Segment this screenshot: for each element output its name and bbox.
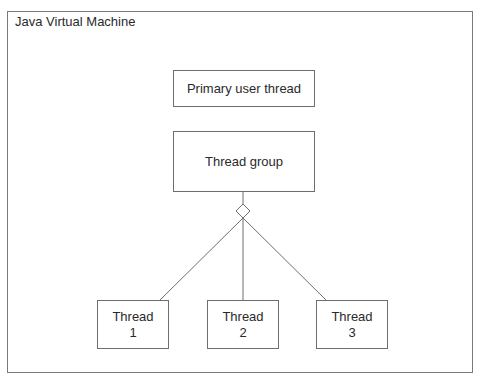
thread-2-number: 2	[239, 325, 246, 341]
thread-2-box: Thread 2	[207, 300, 279, 349]
thread-3-number: 3	[348, 325, 355, 341]
thread-3-label: Thread	[331, 309, 372, 325]
thread-1-label: Thread	[112, 309, 153, 325]
thread-1-number: 1	[129, 325, 136, 341]
thread-1-box: Thread 1	[97, 300, 169, 349]
thread-3-box: Thread 3	[316, 300, 388, 349]
thread-2-label: Thread	[222, 309, 263, 325]
diamond-icon	[236, 204, 250, 218]
